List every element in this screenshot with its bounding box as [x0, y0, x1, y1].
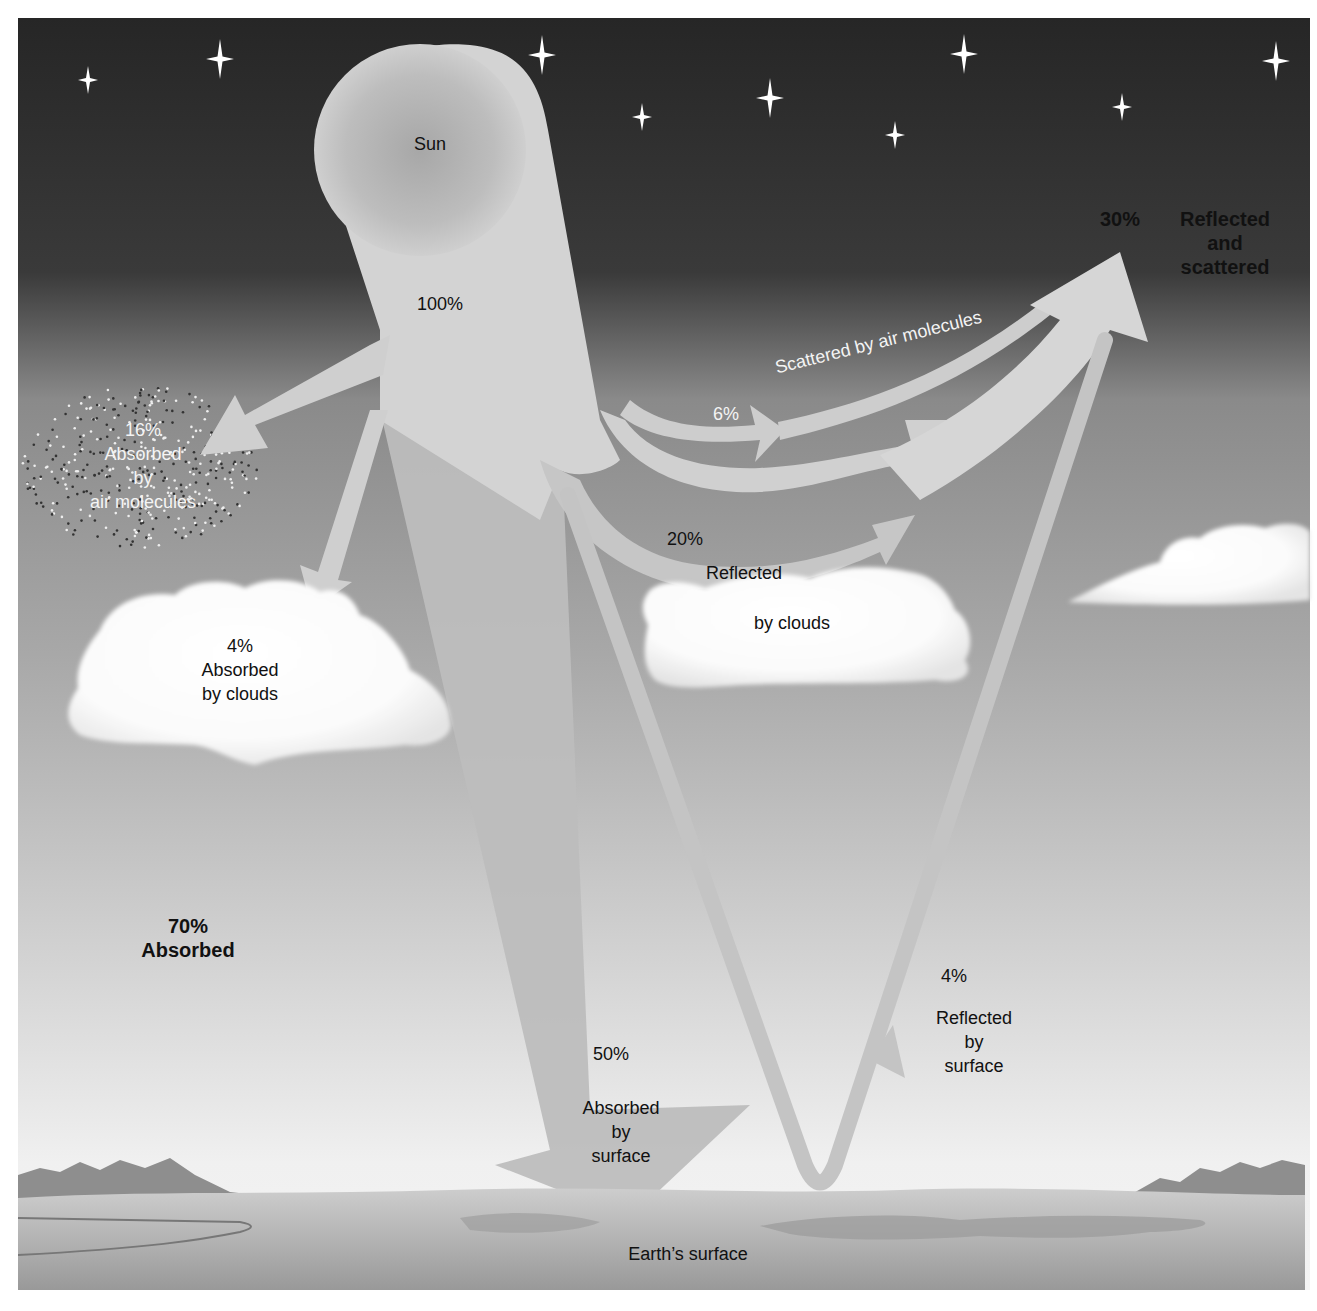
- molecule-dot: [63, 463, 66, 466]
- air-absorption-percent: 16%: [68, 418, 218, 442]
- molecule-dot: [229, 471, 232, 474]
- molecule-dot: [96, 404, 99, 407]
- reflected-total-line: Reflected: [1170, 207, 1280, 231]
- molecule-dot: [117, 414, 120, 417]
- molecule-dot: [194, 396, 197, 399]
- molecule-dot: [62, 477, 65, 480]
- molecule-dot: [54, 477, 57, 480]
- molecule-dot: [171, 410, 174, 413]
- molecule-dot: [165, 409, 168, 412]
- molecule-dot: [135, 407, 138, 410]
- molecule-dot: [124, 405, 127, 408]
- molecule-dot: [191, 401, 194, 404]
- molecule-dot: [242, 451, 245, 454]
- molecule-dot: [67, 522, 70, 525]
- molecule-dot: [209, 517, 212, 520]
- molecule-dot: [167, 516, 170, 519]
- molecule-dot: [116, 529, 119, 532]
- molecule-dot: [54, 418, 57, 421]
- molecule-dot: [154, 395, 157, 398]
- molecule-dot: [247, 491, 250, 494]
- molecule-dot: [32, 486, 35, 489]
- cloud-absorption-percent: 4%: [180, 634, 300, 658]
- molecule-dot: [37, 433, 40, 436]
- molecule-dot: [126, 538, 129, 541]
- molecule-dot: [131, 540, 134, 543]
- molecule-dot: [33, 477, 36, 480]
- molecule-dot: [135, 531, 138, 534]
- molecule-dot: [234, 461, 237, 464]
- molecule-dot: [139, 394, 142, 397]
- molecule-dot: [127, 515, 130, 518]
- molecule-dot: [133, 529, 136, 532]
- molecule-dot: [157, 400, 160, 403]
- cloud-reflection-line2: by clouds: [742, 611, 842, 635]
- surface-absorption-percent: 50%: [586, 1042, 636, 1066]
- cloud-reflection-line1: Reflected: [694, 561, 794, 585]
- molecule-dot: [243, 474, 246, 477]
- molecule-dot: [22, 462, 25, 465]
- molecule-dot: [45, 449, 48, 452]
- molecule-dot: [56, 435, 59, 438]
- molecule-dot: [140, 522, 143, 525]
- molecule-dot: [224, 478, 227, 481]
- molecule-dot: [144, 546, 147, 549]
- molecule-dot: [155, 517, 158, 520]
- molecule-dot: [145, 415, 148, 418]
- molecule-dot: [175, 531, 178, 534]
- sun-percent: 100%: [400, 292, 480, 316]
- molecule-dot: [200, 533, 203, 536]
- molecule-dot: [152, 396, 155, 399]
- cloud-reflection-percent: 20%: [660, 527, 710, 551]
- molecule-dot: [27, 460, 30, 463]
- molecule-dot: [208, 405, 211, 408]
- molecule-dot: [85, 407, 88, 410]
- molecule-dot: [130, 543, 133, 546]
- reflected-total-label: 30% Reflected and scattered: [1100, 207, 1280, 279]
- molecule-dot: [148, 394, 151, 397]
- molecule-dot: [245, 478, 248, 481]
- molecule-dot: [229, 478, 232, 481]
- molecule-dot: [107, 389, 110, 392]
- earth-surface-label: Earth’s surface: [608, 1242, 768, 1266]
- molecule-dot: [140, 389, 143, 392]
- molecule-dot: [33, 444, 36, 447]
- molecule-dot: [68, 404, 71, 407]
- molecule-dot: [62, 446, 65, 449]
- molecule-dot: [220, 520, 223, 523]
- molecule-dot: [198, 406, 201, 409]
- molecule-dot: [64, 413, 67, 416]
- molecule-dot: [80, 402, 83, 405]
- molecule-dot: [182, 411, 185, 414]
- molecule-dot: [134, 535, 137, 538]
- molecule-dot: [90, 406, 93, 409]
- molecule-dot: [193, 517, 196, 520]
- molecule-dot: [135, 411, 138, 414]
- molecule-dot: [83, 396, 86, 399]
- molecule-dot: [175, 399, 178, 402]
- molecule-dot: [174, 528, 177, 531]
- molecule-dot: [158, 544, 161, 547]
- absorbed-total-percent: 70%: [120, 914, 256, 938]
- molecule-dot: [119, 403, 122, 406]
- molecule-dot: [201, 399, 204, 402]
- molecule-dot: [221, 507, 224, 510]
- molecule-dot: [29, 487, 32, 490]
- molecule-dot: [223, 509, 226, 512]
- molecule-dot: [35, 493, 38, 496]
- molecule-dot: [244, 491, 247, 494]
- molecule-dot: [231, 482, 234, 485]
- molecule-dot: [80, 519, 83, 522]
- molecule-dot: [26, 483, 29, 486]
- molecule-dot: [46, 465, 49, 468]
- reflected-total-line: scattered: [1170, 255, 1280, 279]
- molecule-dot: [221, 467, 224, 470]
- molecule-dot: [220, 463, 223, 466]
- molecule-dot: [240, 461, 243, 464]
- molecule-dot: [94, 519, 97, 522]
- molecule-dot: [96, 535, 99, 538]
- molecule-dot: [119, 545, 122, 548]
- molecule-dot: [165, 390, 168, 393]
- molecule-dot: [61, 516, 64, 519]
- molecule-dot: [113, 533, 116, 536]
